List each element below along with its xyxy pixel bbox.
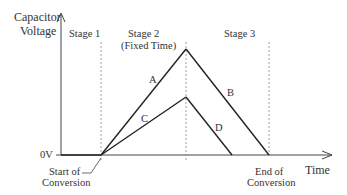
- stage1-label: Stage 1: [69, 28, 100, 40]
- segment-a-label: A: [149, 74, 157, 86]
- segment-b: [186, 49, 269, 155]
- segment-b-label: B: [227, 87, 234, 99]
- segment-d: [186, 97, 232, 155]
- start-label-line2: Conversion: [42, 177, 90, 189]
- zero-volt-label: 0V: [40, 149, 53, 161]
- stage2-label-line2: (Fixed Time): [121, 40, 176, 52]
- end-label-line2: Conversion: [247, 177, 295, 189]
- segment-c: [101, 97, 186, 155]
- start-leader: [82, 158, 101, 173]
- stage2-label-line1: Stage 2: [128, 28, 159, 40]
- y-axis-label-line2: Voltage: [20, 24, 56, 38]
- stage3-label: Stage 3: [224, 28, 255, 40]
- segment-c-label: C: [141, 113, 148, 125]
- y-axis-label-line1: Capacitor: [14, 10, 61, 24]
- x-axis-label: Time: [305, 163, 330, 177]
- segment-a: [101, 49, 186, 155]
- segment-d-label: D: [215, 122, 223, 134]
